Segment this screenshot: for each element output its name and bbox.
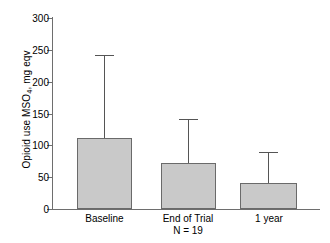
error-bar-cap-one-year xyxy=(259,152,278,153)
x-tick-label-baseline-text: Baseline xyxy=(85,213,123,224)
y-axis-title-main: Opioid use MSO xyxy=(21,94,32,169)
x-axis-line xyxy=(52,209,320,210)
error-bar-cap-baseline xyxy=(95,55,114,56)
error-bar-line-end-of-trial xyxy=(188,119,189,163)
error-bar-line-one-year xyxy=(268,152,269,183)
y-tick-label-300: 300 xyxy=(32,13,49,24)
y-tick-label-50: 50 xyxy=(38,172,49,183)
y-tick-label-100: 100 xyxy=(32,140,49,151)
y-axis-title-tail: , mg eqv xyxy=(21,50,32,89)
y-tick-label-250: 250 xyxy=(32,44,49,55)
error-bar-cap-end-of-trial xyxy=(179,119,198,120)
x-tick-label-one-year: 1 year xyxy=(209,213,329,225)
bar-baseline xyxy=(77,138,132,209)
bar-chart: Opioid use MSO4, mg eqv 0 50 100 150 200 xyxy=(0,0,330,243)
x-tick-sublabel-sample-size: N = 19 xyxy=(128,225,248,237)
bar-end-of-trial xyxy=(161,163,216,209)
x-tick-label-one-year-text: 1 year xyxy=(255,213,283,224)
error-bar-line-baseline xyxy=(104,55,105,137)
plot-area: 0 50 100 150 200 250 300 xyxy=(52,18,320,209)
y-axis-title: Opioid use MSO4, mg eqv xyxy=(21,15,32,205)
y-tick-label-200: 200 xyxy=(32,76,49,87)
y-axis-title-subscript: 4 xyxy=(25,90,34,94)
x-tick-label-end-of-trial-text: End of Trial xyxy=(163,213,214,224)
bar-one-year xyxy=(240,183,297,209)
y-tick-label-150: 150 xyxy=(32,108,49,119)
